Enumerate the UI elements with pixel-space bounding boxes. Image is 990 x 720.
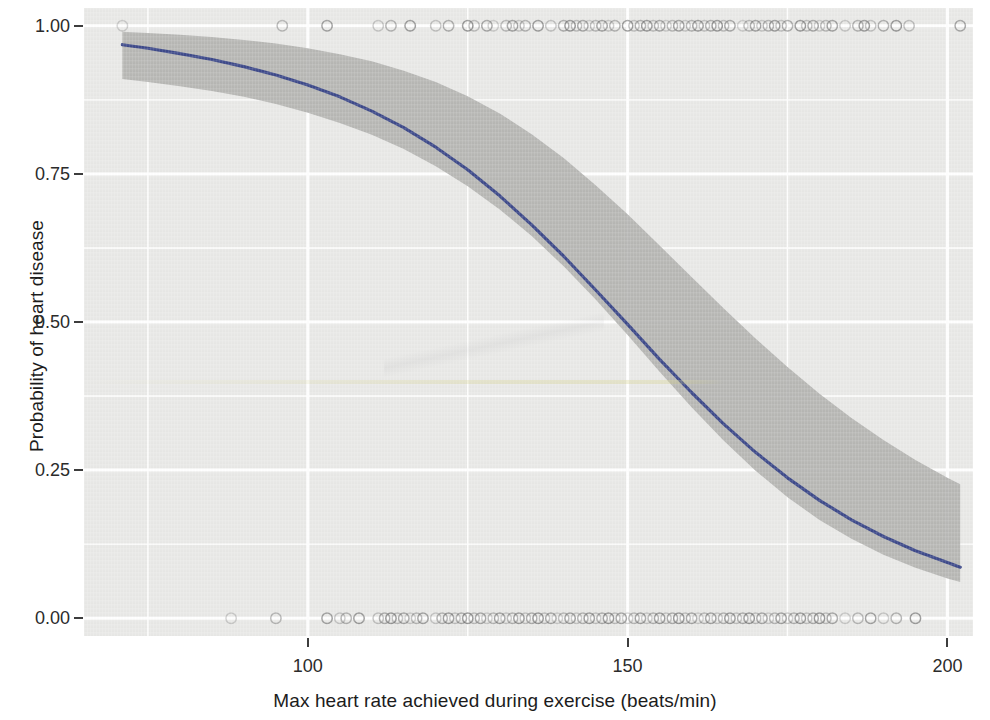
- gridlines-major: [84, 8, 973, 636]
- x-tick-label: 100: [268, 656, 348, 677]
- x-tick-label: 200: [907, 656, 987, 677]
- plot-panel: [84, 8, 973, 636]
- confidence-ribbon: [122, 32, 960, 582]
- chart-figure: Probability of heart disease Max heart r…: [0, 0, 990, 720]
- x-tick-mark: [307, 638, 309, 647]
- x-tick-label: 150: [588, 656, 668, 677]
- x-tick-mark: [946, 638, 948, 647]
- plot-canvas: [84, 8, 973, 636]
- x-tick-mark: [627, 638, 629, 647]
